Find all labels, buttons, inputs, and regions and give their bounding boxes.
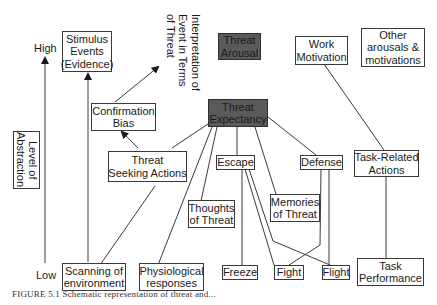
node-text: Physiological [139, 265, 203, 278]
node-text: Motivation [296, 51, 346, 64]
axis-title-line2: Abstraction [14, 132, 27, 187]
node-text: motivations [365, 54, 421, 67]
node-other-arousals: Other arousals & motivations [361, 28, 425, 67]
node-text: Threat [221, 34, 258, 47]
node-text: Interpretation of [189, 14, 202, 91]
node-text: Threat [108, 154, 186, 167]
node-text: Threat [210, 101, 267, 114]
level-of-abstraction-label: Level of Abstraction [13, 131, 40, 189]
node-scanning-of-environment: Scanning of environment [62, 263, 126, 291]
node-text: Defense [301, 156, 342, 169]
node-text: Task-Related [354, 151, 418, 164]
node-stimulus-events: Stimulus Events (Evidence) [62, 31, 112, 72]
node-confirmation-bias: Confirmation Bias [91, 103, 156, 131]
node-text: Memories [271, 196, 319, 209]
node-text: Events [61, 45, 114, 58]
node-fight: Fight [274, 265, 304, 280]
node-text: Arousal [221, 47, 258, 60]
node-threat-arousal: Threat Arousal [218, 33, 261, 60]
node-threat-seeking-actions: Threat Seeking Actions [108, 151, 187, 182]
node-memories-of-threat: Memories of Threat [270, 194, 320, 222]
node-text: Stimulus [61, 33, 114, 46]
node-text: Work [296, 38, 346, 51]
node-text: Seeking Actions [108, 167, 186, 180]
node-text: of Threat [189, 214, 235, 227]
axis-title-line1: Level of [27, 132, 40, 187]
node-freeze: Freeze [222, 265, 258, 280]
node-text: Bias [92, 117, 154, 130]
node-task-performance: Task Performance [357, 258, 424, 286]
node-physiological-responses: Physiological responses [139, 263, 204, 291]
node-text: arousals & [365, 41, 421, 54]
axis-low-label: Low [36, 269, 56, 281]
node-text: responses [139, 277, 203, 290]
node-text: Thoughts [189, 202, 235, 215]
node-thoughts-of-threat: Thoughts of Threat [188, 200, 235, 228]
node-text: Freeze [223, 266, 257, 279]
node-text: Flight [323, 266, 350, 279]
node-work-motivation: Work Motivation [295, 36, 348, 65]
node-defense: Defense [300, 155, 343, 170]
node-text: Expectancy [210, 113, 267, 126]
node-text: Task [359, 260, 422, 273]
node-interpretation: Interpretation of Event in Terms of Thre… [164, 14, 202, 91]
figure-caption: FIGURE 5.1 Schematic representation of t… [12, 289, 216, 299]
node-threat-expectancy: Threat Expectancy [208, 99, 268, 127]
node-text: Fight [277, 266, 301, 279]
node-text: Actions [354, 164, 418, 177]
node-text: Confirmation [92, 105, 154, 118]
node-text: of Threat [271, 208, 319, 221]
node-flight: Flight [322, 265, 350, 280]
axis-high-label: High [34, 42, 57, 54]
node-text: Performance [359, 272, 422, 285]
node-text: (Evidence) [61, 58, 114, 71]
node-task-related-actions: Task-Related Actions [354, 150, 419, 177]
node-text: of Threat [164, 14, 177, 91]
node-text: Scanning of [64, 265, 125, 278]
node-escape: Escape [216, 155, 255, 170]
node-text: environment [64, 277, 125, 290]
node-text: Other [365, 29, 421, 42]
node-text: Event in Terms [177, 14, 190, 91]
node-text: Escape [217, 156, 254, 169]
